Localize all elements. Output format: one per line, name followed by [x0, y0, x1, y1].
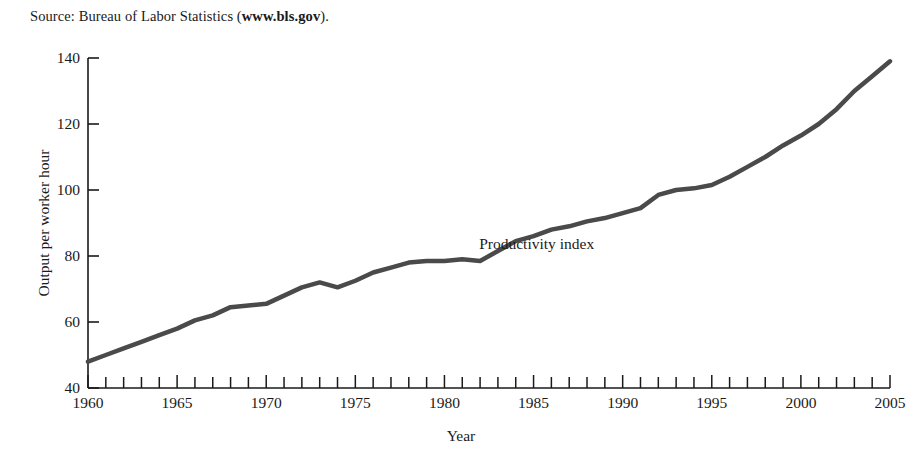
y-tick-label: 60 — [28, 314, 80, 330]
source-note-url: www.bls.gov — [242, 8, 320, 24]
y-tick-label: 120 — [28, 116, 80, 132]
x-tick-label: 2000 — [766, 395, 836, 411]
source-note-prefix: Source: Bureau of Labor Statistics ( — [30, 8, 242, 24]
x-tick-label: 1975 — [320, 395, 390, 411]
x-tick-label: 1985 — [499, 395, 569, 411]
source-note-suffix: ). — [320, 8, 329, 24]
y-tick-label: 100 — [28, 182, 80, 198]
series-annotation-productivity-index: Productivity index — [479, 235, 594, 253]
x-tick-label: 1960 — [53, 395, 123, 411]
series-layer — [88, 61, 890, 361]
x-tick-label: 1965 — [142, 395, 212, 411]
y-tick-marks — [88, 58, 99, 388]
x-tick-marks — [88, 375, 890, 388]
y-tick-label: 140 — [28, 50, 80, 66]
productivity-index-line — [88, 61, 890, 361]
x-tick-label: 1990 — [588, 395, 658, 411]
x-tick-label: 1970 — [231, 395, 301, 411]
x-tick-label: 1980 — [409, 395, 479, 411]
source-note: Source: Bureau of Labor Statistics (www.… — [30, 8, 329, 25]
productivity-line-chart: Output per worker hour Year 406080100120… — [0, 34, 922, 466]
x-tick-label: 2005 — [855, 395, 922, 411]
axis-lines — [88, 58, 890, 388]
y-tick-label: 80 — [28, 248, 80, 264]
x-tick-label: 1995 — [677, 395, 747, 411]
